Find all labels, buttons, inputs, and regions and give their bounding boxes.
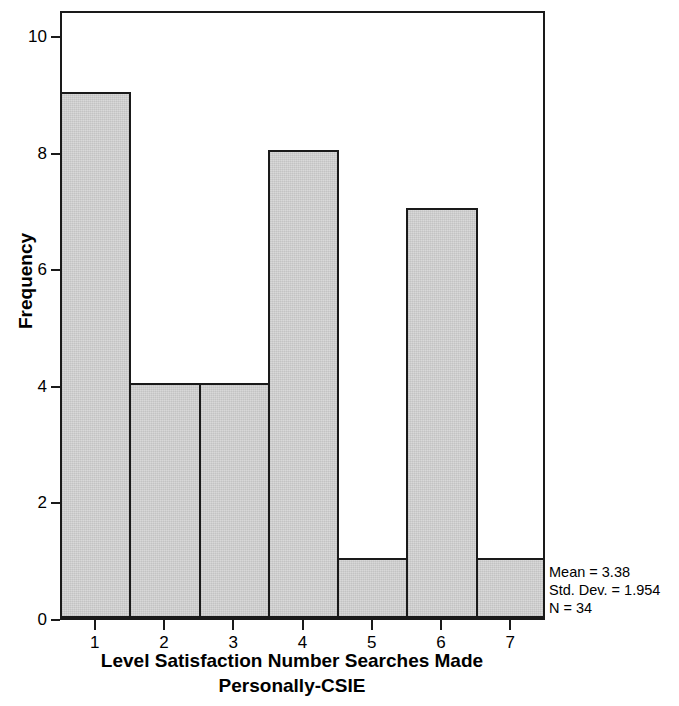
histogram-figure: Frequency 0246810 1234567 Level Satisfac…	[0, 0, 679, 706]
stat-n: N = 34	[549, 599, 660, 617]
x-tick-mark	[440, 620, 442, 630]
y-tick-mark	[51, 619, 60, 621]
y-tick-label: 6	[17, 260, 47, 280]
y-tick-mark	[51, 269, 60, 271]
stat-mean: Mean = 3.38	[549, 563, 660, 581]
x-axis-title-line-2: Personally-CSIE	[42, 673, 542, 698]
y-tick-label: 4	[17, 377, 47, 397]
y-tick-label: 2	[17, 493, 47, 513]
histogram-bar	[476, 558, 545, 618]
x-axis-title: Level Satisfaction Number Searches Made …	[42, 648, 542, 698]
x-tick-mark	[94, 620, 96, 630]
x-tick-mark	[371, 620, 373, 630]
x-tick-mark	[163, 620, 165, 630]
y-tick-mark	[51, 502, 60, 504]
histogram-bar	[60, 92, 131, 618]
y-tick-label: 10	[17, 27, 47, 47]
y-tick-label: 8	[17, 144, 47, 164]
stats-annotation: Mean = 3.38 Std. Dev. = 1.954 N = 34	[549, 563, 660, 617]
histogram-bar	[199, 383, 270, 618]
y-tick-label: 0	[17, 610, 47, 630]
histogram-bar	[129, 383, 200, 618]
bars-layer	[62, 13, 543, 618]
y-tick-mark	[51, 153, 60, 155]
y-tick-mark	[51, 386, 60, 388]
y-axis-title: Frequency	[15, 191, 37, 371]
plot-area	[60, 11, 545, 620]
histogram-bar	[268, 150, 339, 618]
y-tick-mark	[51, 36, 60, 38]
x-tick-mark	[302, 620, 304, 630]
x-axis-title-line-1: Level Satisfaction Number Searches Made	[42, 648, 542, 673]
stat-stddev: Std. Dev. = 1.954	[549, 581, 660, 599]
x-tick-mark	[232, 620, 234, 630]
x-tick-mark	[509, 620, 511, 630]
histogram-bar	[406, 208, 477, 618]
histogram-bar	[337, 558, 408, 618]
